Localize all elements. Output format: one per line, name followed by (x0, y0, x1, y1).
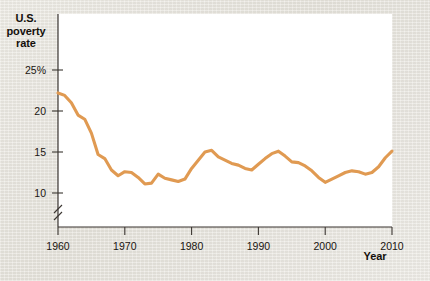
y-tick-label-20: 20 (10, 105, 46, 117)
x-tick-label-1970: 1970 (105, 240, 145, 252)
y-tick-label-25: 25% (10, 64, 46, 76)
x-tick-label-2010: 2010 (372, 240, 412, 252)
y-tick-label-15: 15 (10, 146, 46, 158)
poverty-rate-figure: U.S. poverty rate Year 25% 20 15 10 1960… (0, 0, 430, 281)
y-axis-title: U.S. poverty rate (0, 12, 52, 50)
poverty-rate-line (58, 93, 392, 184)
y-axis-title-line-2: poverty (0, 25, 52, 38)
y-axis-title-line-1: U.S. (0, 12, 52, 25)
x-tick-label-1980: 1980 (172, 240, 212, 252)
y-axis-title-line-3: rate (0, 37, 52, 50)
x-tick-label-1990: 1990 (238, 240, 278, 252)
x-tick-label-1960: 1960 (38, 240, 78, 252)
chart-canvas (0, 0, 430, 281)
x-tick-label-2000: 2000 (305, 240, 345, 252)
x-axis-ticks (58, 227, 392, 235)
y-tick-label-10: 10 (10, 187, 46, 199)
